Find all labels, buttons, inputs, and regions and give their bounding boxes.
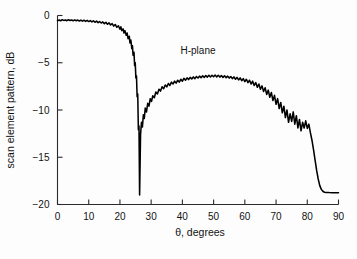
x-tick-label: 70 — [270, 211, 282, 222]
x-tick-label: 20 — [114, 211, 126, 222]
scan-element-pattern-chart: 0−5−10−15−20 0102030405060708090 H-plane… — [0, 0, 357, 259]
x-tick-label: 90 — [333, 211, 345, 222]
y-tick-label: −15 — [33, 152, 50, 163]
x-tick-label: 60 — [239, 211, 251, 222]
annotation-h-plane: H-plane — [180, 45, 215, 56]
y-tick-label: −20 — [33, 199, 50, 210]
x-tick-label: 0 — [55, 211, 61, 222]
y-tick-label: −5 — [38, 57, 50, 68]
y-axis-title: scan element pattern, dB — [4, 52, 16, 169]
x-tick-label: 80 — [302, 211, 314, 222]
y-tick-label: 0 — [44, 10, 50, 21]
chart-figure: 0−5−10−15−20 0102030405060708090 H-plane… — [0, 0, 357, 259]
x-tick-label: 40 — [177, 211, 189, 222]
x-tick-label: 10 — [83, 211, 95, 222]
x-axis-title: θ, degrees — [175, 226, 225, 238]
x-tick-label: 50 — [208, 211, 220, 222]
x-tick-label: 30 — [146, 211, 158, 222]
y-tick-label: −10 — [33, 105, 50, 116]
